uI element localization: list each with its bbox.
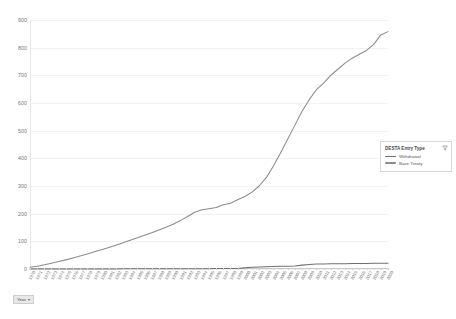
- x-axis-tick-mark: [281, 268, 282, 270]
- legend-title-label: DESTA Entry Type: [385, 146, 425, 151]
- year-field-label: Year: [17, 297, 26, 302]
- y-axis-tick-label: 900: [18, 17, 27, 23]
- x-axis-tick-mark: [137, 268, 138, 270]
- x-axis-tick-mark: [367, 268, 368, 270]
- x-axis-tick-mark: [44, 268, 45, 270]
- legend[interactable]: DESTA Entry Type WithdrawalBase Treaty: [380, 141, 452, 172]
- chart-container: 0100200300400500600700800900 19701971197…: [0, 0, 456, 319]
- legend-items: WithdrawalBase Treaty: [385, 154, 448, 166]
- x-axis-tick-mark: [51, 268, 52, 270]
- x-axis-tick-mark: [316, 268, 317, 270]
- legend-color-swatch: [385, 156, 396, 158]
- legend-item-label: Base Treaty: [399, 161, 422, 166]
- x-axis-tick-mark: [230, 268, 231, 270]
- y-axis-tick-label: 400: [18, 155, 27, 161]
- legend-color-swatch: [385, 162, 396, 164]
- y-axis-tick-label: 300: [18, 183, 27, 189]
- y-axis-tick-label: 0: [24, 266, 27, 272]
- x-axis: 1970197119721973197419751976197719781979…: [30, 270, 388, 296]
- legend-title: DESTA Entry Type: [385, 145, 448, 151]
- y-axis-tick-label: 600: [18, 100, 27, 106]
- x-axis-tick-mark: [331, 268, 332, 270]
- x-axis-tick-mark: [102, 268, 103, 270]
- y-axis-tick-label: 100: [18, 238, 27, 244]
- x-axis-tick-mark: [109, 268, 110, 270]
- series-lines: [30, 20, 388, 269]
- x-axis-tick-mark: [180, 268, 181, 270]
- chevron-down-icon[interactable]: ▾: [28, 298, 30, 302]
- x-axis-tick-mark: [195, 268, 196, 270]
- x-axis-tick-mark: [94, 268, 95, 270]
- y-axis-tick-label: 700: [18, 72, 27, 78]
- x-axis-tick-mark: [188, 268, 189, 270]
- legend-item[interactable]: Withdrawal: [385, 154, 448, 159]
- y-axis: 0100200300400500600700800900: [0, 20, 27, 269]
- x-axis-tick-mark: [238, 268, 239, 270]
- y-axis-tick-label: 200: [18, 211, 27, 217]
- y-axis-tick-label: 800: [18, 45, 27, 51]
- x-axis-tick-mark: [145, 268, 146, 270]
- y-axis-tick-label: 500: [18, 128, 27, 134]
- x-axis-tick-mark: [223, 268, 224, 270]
- plot-area: [30, 20, 388, 269]
- x-axis-tick-mark: [288, 268, 289, 270]
- filter-icon[interactable]: [442, 145, 448, 151]
- x-axis-tick-mark: [59, 268, 60, 270]
- x-axis-tick-mark: [152, 268, 153, 270]
- legend-item[interactable]: Base Treaty: [385, 161, 448, 166]
- line-base-treaty[interactable]: [30, 32, 388, 268]
- x-axis-tick-mark: [359, 268, 360, 270]
- x-axis-tick-mark: [374, 268, 375, 270]
- x-axis-tick-mark: [273, 268, 274, 270]
- x-axis-tick-mark: [324, 268, 325, 270]
- legend-item-label: Withdrawal: [399, 154, 421, 159]
- year-field-pill[interactable]: Year ▾: [13, 295, 34, 304]
